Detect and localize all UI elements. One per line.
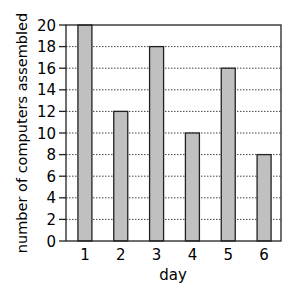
x-tick-label: 5 xyxy=(223,246,233,264)
y-tick-label: 20 xyxy=(37,17,56,35)
x-axis-label: day xyxy=(159,266,187,284)
x-tick-label: 6 xyxy=(259,246,269,264)
y-tick-label: 18 xyxy=(37,38,56,56)
x-tick-label: 2 xyxy=(116,246,126,264)
bar-day-6 xyxy=(257,155,271,241)
y-tick-label: 2 xyxy=(46,211,56,229)
y-tick-label: 4 xyxy=(46,189,56,207)
x-tick-label: 4 xyxy=(188,246,198,264)
y-tick-label: 6 xyxy=(46,168,56,186)
y-axis-ticks: 02468101214161820 xyxy=(37,17,66,251)
x-tick-label: 3 xyxy=(152,246,162,264)
bar-chart: 02468101214161820 123456 day number of c… xyxy=(0,0,288,292)
bar-day-1 xyxy=(78,25,92,241)
bar-day-2 xyxy=(114,111,128,241)
y-tick-label: 14 xyxy=(37,81,56,99)
bar-day-5 xyxy=(221,68,235,241)
plot-frame xyxy=(66,25,281,241)
y-tick-label: 10 xyxy=(37,125,56,143)
y-tick-label: 0 xyxy=(46,233,56,251)
y-tick-label: 8 xyxy=(46,146,56,164)
y-tick-label: 16 xyxy=(37,60,56,78)
gridlines xyxy=(66,47,281,220)
y-axis-label: number of computers assembled xyxy=(14,13,30,253)
bar-day-4 xyxy=(185,133,199,241)
x-tick-label: 1 xyxy=(80,246,90,264)
y-tick-label: 12 xyxy=(37,103,56,121)
bar-day-3 xyxy=(150,47,164,241)
x-axis-ticks: 123456 xyxy=(80,246,269,264)
